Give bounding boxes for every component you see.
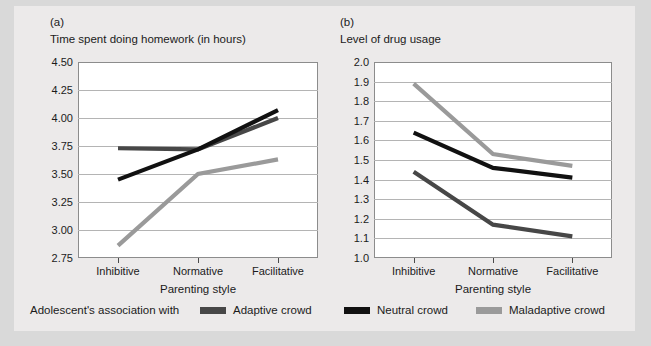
panel-label-b: (b)	[340, 16, 354, 28]
y-tick-label: 3.25	[52, 196, 73, 208]
y-tick-label: 1.5	[354, 154, 369, 166]
legend-label: Neutral crowd	[377, 304, 448, 316]
x-tick-label: Normative	[468, 265, 518, 277]
x-tick-label: Inhibitive	[392, 265, 435, 277]
plot-area-b: 2.01.91.81.71.61.51.41.31.21.11.0 Inhibi…	[374, 62, 612, 258]
y-tick-label: 1.8	[354, 95, 369, 107]
x-tick-label: Facilitative	[546, 265, 598, 277]
y-tick-label: 1.3	[354, 193, 369, 205]
series-lines-b	[374, 62, 612, 258]
series-line-neutral	[118, 110, 278, 179]
x-axis-title-a: Parenting style	[160, 283, 236, 295]
legend-entry-1: Neutral crowd	[344, 304, 448, 316]
y-tick-label: 3.50	[52, 168, 73, 180]
y-tick-label: 3.00	[52, 224, 73, 236]
x-tick-mark	[572, 258, 573, 263]
series-line-adaptive	[414, 172, 573, 237]
x-tick-label: Inhibitive	[96, 265, 139, 277]
series-line-maladaptive	[414, 84, 573, 166]
chart-panel-a: (a) Time spent doing homework (in hours)…	[24, 6, 329, 296]
y-tick-label: 4.50	[52, 56, 73, 68]
legend-entry-2: Maladaptive crowd	[476, 304, 605, 316]
y-tick-label: 1.4	[354, 174, 369, 186]
legend-swatch-icon	[476, 307, 502, 314]
legend-entry-0: Adaptive crowd	[200, 304, 312, 316]
series-lines-a	[78, 62, 318, 258]
y-tick-label: 1.6	[354, 134, 369, 146]
y-tick-label: 4.00	[52, 112, 73, 124]
legend-swatch-icon	[344, 307, 370, 314]
y-tick-label: 1.9	[354, 76, 369, 88]
legend-label: Maladaptive crowd	[509, 304, 605, 316]
x-axis-title-b: Parenting style	[455, 283, 531, 295]
legend-caption: Adolescent's association with	[30, 304, 179, 316]
y-tick-label: 3.75	[52, 140, 73, 152]
chart-title-a: Time spent doing homework (in hours)	[50, 33, 246, 45]
legend-label: Adaptive crowd	[233, 304, 312, 316]
x-tick-mark	[278, 258, 279, 263]
y-tick-label: 2.0	[354, 56, 369, 68]
x-tick-mark	[198, 258, 199, 263]
plot-area-a: 4.504.254.003.753.503.253.002.75 Inhibit…	[78, 62, 318, 258]
y-tick-label: 1.1	[354, 232, 369, 244]
y-tick-label: 1.0	[354, 252, 369, 264]
y-tick-label: 2.75	[52, 252, 73, 264]
figure-panel: (a) Time spent doing homework (in hours)…	[14, 6, 635, 331]
x-tick-label: Facilitative	[252, 265, 304, 277]
y-tick-label: 4.25	[52, 84, 73, 96]
figure-legend: Adolescent's association with Adaptive c…	[14, 302, 635, 324]
panel-label-a: (a)	[50, 16, 64, 28]
x-tick-mark	[414, 258, 415, 263]
y-tick-label: 1.7	[354, 115, 369, 127]
chart-panel-b: (b) Level of drug usage 2.01.91.81.71.61…	[314, 6, 629, 296]
x-tick-mark	[118, 258, 119, 263]
x-tick-mark	[493, 258, 494, 263]
legend-swatch-icon	[200, 307, 226, 314]
y-tick-label: 1.2	[354, 213, 369, 225]
chart-title-b: Level of drug usage	[340, 33, 441, 45]
x-tick-label: Normative	[173, 265, 223, 277]
